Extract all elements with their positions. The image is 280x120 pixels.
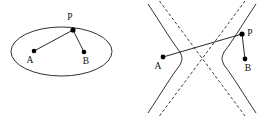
conic-figure-svg: A B P A B P (0, 0, 280, 120)
ellipse-point-P-dot (70, 27, 75, 32)
ellipse-panel: A B P (11, 12, 112, 76)
ellipse-segment-PA (34, 30, 73, 51)
hyperbola-panel: A B P (148, 1, 256, 116)
ellipse-point-P-label: P (67, 12, 72, 22)
ellipse-point-B-label: B (83, 56, 89, 66)
hyperbola-point-A-label: A (155, 61, 162, 71)
ellipse-point-A-dot (32, 49, 37, 54)
conic-figure-container: A B P A B P (0, 0, 280, 120)
hyperbola-point-A-dot (161, 55, 166, 60)
ellipse-point-A-label: A (27, 55, 34, 65)
hyperbola-point-B-dot (243, 57, 248, 62)
hyperbola-point-B-label: B (245, 63, 251, 73)
hyperbola-segment-PB (242, 34, 245, 59)
ellipse-segment-PB (73, 30, 84, 52)
hyperbola-left-branch (148, 4, 182, 113)
hyperbola-point-P-label: P (247, 28, 252, 38)
ellipse-point-B-dot (82, 50, 87, 55)
ellipse-curve (11, 27, 112, 76)
hyperbola-point-P-dot (239, 31, 244, 36)
hyperbola-right-branch (222, 4, 256, 113)
